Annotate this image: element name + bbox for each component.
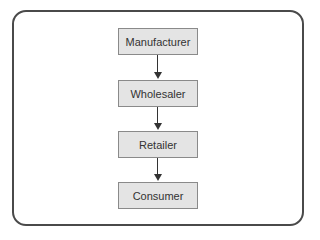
node-consumer: Consumer [118, 182, 198, 209]
edge-wholesaler-retailer [157, 107, 158, 124]
node-wholesaler: Wholesaler [118, 80, 198, 107]
node-manufacturer: Manufacturer [118, 28, 198, 55]
arrow-down-icon [154, 72, 162, 79]
node-retailer: Retailer [118, 131, 198, 158]
edge-retailer-consumer [157, 158, 158, 175]
edge-manufacturer-wholesaler [157, 55, 158, 73]
arrow-down-icon [154, 123, 162, 130]
arrow-down-icon [154, 174, 162, 181]
